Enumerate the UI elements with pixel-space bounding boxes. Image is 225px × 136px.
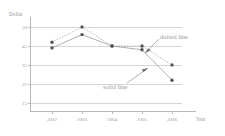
y-tick-label: 45 [22,44,27,49]
x-tick-label: 2002 [47,117,57,122]
data-point [50,41,53,44]
x-tick-label: 2004 [107,117,117,122]
data-point [170,79,173,82]
data-point [50,46,53,49]
series-solid-line [50,33,173,82]
y-axis-title: Dollar [9,11,23,17]
y-tick-label: 25 [22,82,27,87]
line-chart: Dollar Year 5045352515 20022003200420052… [0,0,225,136]
annotation-dotted-line: dotted line [160,33,188,40]
data-point [80,25,83,28]
data-point [140,48,143,51]
data-point [140,44,143,47]
x-tick-label: 2005 [137,117,147,122]
annotation-solid-line: solid line [103,83,127,90]
data-point [80,33,83,36]
data-point [110,44,113,47]
x-tick-label: 2006 [167,117,177,122]
series-layer [30,17,182,112]
plot-area: 5045352515 20022003200420052006 [30,17,182,112]
y-tick-label: 15 [22,101,27,106]
data-point [170,63,173,66]
x-tick-label: 2003 [77,117,87,122]
y-tick-label: 35 [22,63,27,68]
x-axis-title: Year [196,116,206,122]
y-tick-label: 50 [22,25,27,30]
series-path [52,35,172,81]
